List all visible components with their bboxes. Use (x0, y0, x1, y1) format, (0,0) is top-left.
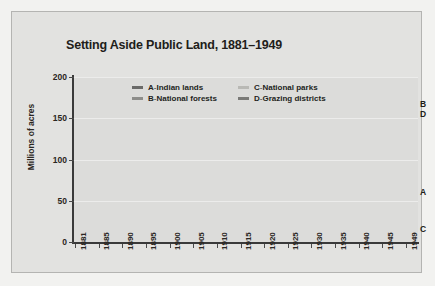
x-axis-tick-label: 1930 (315, 232, 324, 250)
y-axis-tick-label: 100 (53, 155, 67, 165)
x-axis-tick (170, 244, 171, 248)
y-axis-tick-label: 150 (53, 113, 67, 123)
legend-item-a: A - Indian lands (132, 83, 224, 92)
y-axis-tick (69, 77, 74, 78)
legend-label: Grazing districts (262, 94, 325, 103)
legend-row: A - Indian landsC - National parks (132, 82, 344, 93)
y-axis-title: Millions of acres (26, 82, 36, 192)
x-axis-tick-label: 1900 (173, 232, 182, 250)
legend-label: National forests (156, 94, 216, 103)
gridline (73, 160, 418, 161)
x-axis-tick (359, 244, 360, 248)
x-axis-tick-label: 1910 (220, 232, 229, 250)
x-axis-tick-label: 1920 (268, 232, 277, 250)
x-axis-tick (264, 244, 265, 248)
legend-label: Indian lands (156, 83, 203, 92)
x-axis-tick-label: 1885 (102, 232, 111, 250)
x-axis-tick (382, 244, 383, 248)
series-end-label-b: B (420, 99, 426, 109)
x-axis-tick (288, 244, 289, 248)
x-axis-tick-label: 1881 (79, 232, 88, 250)
chart-title: Setting Aside Public Land, 1881–1949 (66, 38, 282, 52)
legend-swatch-icon (132, 97, 143, 101)
x-axis-tick-label: 1940 (362, 232, 371, 250)
x-axis-tick (193, 244, 194, 248)
legend-row: B - National forestsD - Grazing district… (132, 93, 344, 104)
legend-item-c: C - National parks (238, 83, 330, 92)
legend-swatch-icon (238, 97, 249, 101)
series-end-label-a: A (420, 187, 426, 197)
x-axis-tick (122, 244, 123, 248)
x-axis-tick-label: 1905 (197, 232, 206, 250)
x-axis-tick (99, 244, 100, 248)
x-axis-tick-label: 1945 (386, 232, 395, 250)
series-end-label-c: C (420, 224, 426, 234)
gridline (73, 201, 418, 202)
gridline (73, 118, 418, 119)
y-axis-tick-label: 0 (62, 237, 67, 247)
x-axis-tick-label: 1925 (291, 232, 300, 250)
legend-swatch-icon (238, 86, 249, 90)
y-axis-tick-label: 200 (53, 72, 67, 82)
x-axis-tick-label: 1895 (149, 232, 158, 250)
x-axis-tick (75, 244, 76, 248)
legend-item-d: D - Grazing districts (238, 94, 330, 103)
x-axis-tick-label: 1890 (126, 232, 135, 250)
y-axis-tick (69, 201, 74, 202)
y-axis-tick (69, 118, 74, 119)
legend-item-b: B - National forests (132, 94, 224, 103)
legend-label: National parks (262, 83, 317, 92)
x-axis-tick (217, 244, 218, 248)
x-axis-tick-label: 1935 (339, 232, 348, 250)
x-axis-tick (146, 244, 147, 248)
x-axis-tick (311, 244, 312, 248)
x-axis-tick (406, 244, 407, 248)
series-end-label-d: D (420, 109, 426, 119)
y-axis-tick (69, 242, 74, 243)
chart-legend: A - Indian landsC - National parksB - Na… (132, 82, 344, 104)
y-axis-tick (69, 160, 74, 161)
gridline (73, 77, 418, 78)
x-axis-tick-label: 1949 (410, 232, 419, 250)
x-axis-tick (335, 244, 336, 248)
y-axis-label-group: 050100150200 (12, 12, 67, 286)
y-axis-tick-label: 50 (58, 196, 67, 206)
chart-figure: Setting Aside Public Land, 1881–1949 050… (11, 11, 422, 273)
legend-swatch-icon (132, 86, 143, 90)
x-axis-tick (241, 244, 242, 248)
x-axis-tick-label: 1915 (244, 232, 253, 250)
